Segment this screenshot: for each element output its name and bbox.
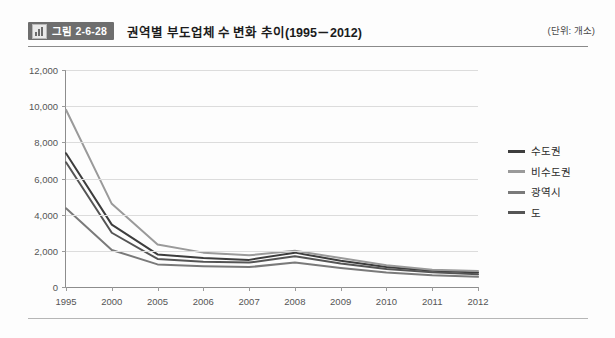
legend-label: 비수도권 bbox=[531, 167, 571, 178]
gridline bbox=[66, 179, 478, 180]
y-axis-tick bbox=[62, 179, 66, 180]
x-axis-tick-label: 2007 bbox=[239, 296, 260, 307]
y-axis-tick bbox=[62, 251, 66, 252]
chart-legend: 수도권비수도권광역시도 bbox=[508, 146, 571, 218]
x-axis-tick-label: 1995 bbox=[55, 296, 76, 307]
figure-page: 그림 2-6-28 권역별 부도업체 수 변화 추이(1995－2012) (단… bbox=[0, 0, 615, 338]
unit-label: (단위: 개소) bbox=[547, 23, 595, 37]
figure-number-badge: 그림 2-6-28 bbox=[28, 22, 114, 40]
x-axis-tick-label: 2012 bbox=[467, 296, 488, 307]
x-axis-tick bbox=[386, 287, 387, 291]
legend-item[interactable]: 비수도권 bbox=[508, 167, 571, 178]
legend-label: 광역시 bbox=[531, 187, 561, 198]
series-line bbox=[66, 110, 478, 271]
legend-label: 수도권 bbox=[531, 146, 561, 157]
y-axis-tick bbox=[62, 215, 66, 216]
footer-divider bbox=[28, 318, 588, 319]
legend-item[interactable]: 수도권 bbox=[508, 146, 571, 157]
gridline bbox=[66, 251, 478, 252]
gridline bbox=[66, 106, 478, 107]
x-axis-tick-label: 2006 bbox=[193, 296, 214, 307]
header-divider bbox=[28, 46, 588, 47]
y-axis-tick-label: 0 bbox=[53, 282, 58, 293]
plot-area: 02,0004,0006,0008,00010,00012,0001995200… bbox=[66, 70, 478, 287]
y-axis-tick bbox=[62, 70, 66, 71]
legend-swatch bbox=[508, 191, 525, 194]
x-axis-tick-label: 2000 bbox=[101, 296, 122, 307]
x-axis-tick bbox=[249, 287, 250, 291]
bar-chart-icon bbox=[32, 24, 47, 39]
y-axis-tick bbox=[62, 106, 66, 107]
gridline bbox=[66, 70, 478, 71]
figure-header: 그림 2-6-28 권역별 부도업체 수 변화 추이(1995－2012) bbox=[28, 17, 588, 45]
legend-swatch bbox=[508, 150, 525, 153]
legend-item[interactable]: 광역시 bbox=[508, 187, 571, 198]
gridline bbox=[66, 142, 478, 143]
legend-item[interactable]: 도 bbox=[508, 208, 571, 219]
legend-swatch bbox=[508, 170, 525, 173]
figure-number-label: 그림 2-6-28 bbox=[52, 26, 107, 37]
x-axis-tick-label: 2005 bbox=[147, 296, 168, 307]
y-axis-tick bbox=[62, 142, 66, 143]
x-axis-tick bbox=[66, 287, 67, 291]
x-axis-tick bbox=[341, 287, 342, 291]
y-axis-tick-label: 2,000 bbox=[34, 245, 58, 256]
x-axis-tick bbox=[203, 287, 204, 291]
x-axis-tick bbox=[432, 287, 433, 291]
x-axis-tick-label: 2009 bbox=[330, 296, 351, 307]
legend-swatch bbox=[508, 211, 525, 214]
y-axis-tick-label: 12,000 bbox=[29, 65, 58, 76]
x-axis-tick bbox=[112, 287, 113, 291]
y-axis-tick-label: 8,000 bbox=[34, 137, 58, 148]
x-axis-tick-label: 2011 bbox=[422, 296, 442, 307]
x-axis-tick bbox=[478, 287, 479, 291]
legend-label: 도 bbox=[531, 208, 541, 219]
x-axis-tick-label: 2010 bbox=[376, 296, 397, 307]
y-axis-tick-label: 6,000 bbox=[34, 173, 58, 184]
x-axis-tick bbox=[158, 287, 159, 291]
gridline bbox=[66, 215, 478, 216]
y-axis-tick-label: 10,000 bbox=[29, 101, 58, 112]
y-axis-tick-label: 4,000 bbox=[34, 209, 58, 220]
x-axis-tick-label: 2008 bbox=[284, 296, 305, 307]
x-axis-tick bbox=[295, 287, 296, 291]
figure-title: 권역별 부도업체 수 변화 추이(1995－2012) bbox=[127, 22, 362, 41]
x-axis bbox=[65, 287, 479, 288]
